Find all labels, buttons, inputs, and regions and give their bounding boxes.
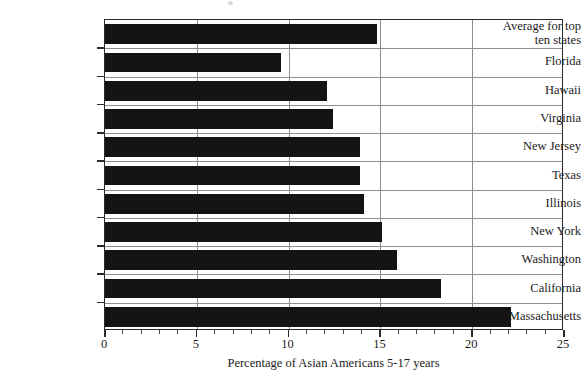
x-axis-tick-minor (233, 330, 234, 334)
x-axis-tick-label: 15 (359, 337, 399, 352)
gridline-horizontal (105, 161, 562, 162)
gridline-horizontal (105, 274, 562, 275)
bar (105, 250, 397, 270)
x-axis-tick-minor (122, 330, 123, 334)
gridline-horizontal (105, 190, 562, 191)
y-axis-tick (97, 132, 104, 134)
y-axis-label-virginia: Virginia (486, 111, 586, 125)
x-axis-title: Percentage of Asian Americans 5-17 years (104, 356, 563, 371)
x-axis-tick-minor (343, 330, 344, 334)
y-axis-label-illinois: Illinois (486, 196, 586, 210)
x-axis-tick-minor (453, 330, 454, 334)
y-axis-label-washington: Washington (486, 252, 586, 266)
gridline-horizontal (105, 133, 562, 134)
x-axis-tick-label: 5 (176, 337, 216, 352)
x-axis-tick-label: 20 (451, 337, 491, 352)
x-axis-tick-major (563, 330, 565, 337)
bar (105, 222, 382, 242)
gridline-horizontal (105, 246, 562, 247)
bar (105, 81, 327, 101)
gridline-horizontal (105, 218, 562, 219)
x-axis-tick-minor (398, 330, 399, 334)
x-axis-tick-major (196, 330, 198, 337)
x-axis-tick-minor (508, 330, 509, 334)
x-axis-tick-label: 25 (543, 337, 583, 352)
y-axis-tick (97, 189, 104, 191)
x-axis-tick-minor (434, 330, 435, 334)
y-axis-label-average-for-top-ten-states: Average for top ten states (486, 19, 586, 47)
x-axis-tick-major (471, 330, 473, 337)
x-axis-tick-label: 10 (268, 337, 308, 352)
gridline-horizontal (105, 105, 562, 106)
y-axis-tick (97, 104, 104, 106)
y-axis-tick (97, 273, 104, 275)
scan-artifact-speck (228, 1, 233, 5)
bar (105, 24, 377, 44)
x-axis-tick-major (288, 330, 290, 337)
bar (105, 109, 333, 129)
y-axis-tick (97, 245, 104, 247)
gridline-horizontal (105, 48, 562, 49)
y-axis-label-texas: Texas (486, 168, 586, 182)
x-axis-tick-minor (159, 330, 160, 334)
x-axis-tick-minor (416, 330, 417, 334)
bar (105, 194, 364, 214)
x-axis-tick-minor (490, 330, 491, 334)
x-axis-tick-minor (306, 330, 307, 334)
bar (105, 166, 360, 186)
bar (105, 137, 360, 157)
x-axis-tick-minor (269, 330, 270, 334)
x-axis-tick-minor (177, 330, 178, 334)
y-axis-label-new-jersey: New Jersey (486, 139, 586, 153)
x-axis-tick-minor (324, 330, 325, 334)
gridline-horizontal (105, 303, 562, 304)
x-axis-tick-minor (214, 330, 215, 334)
x-axis-tick-major (379, 330, 381, 337)
x-axis-tick-minor (361, 330, 362, 334)
x-axis-tick-major (104, 330, 106, 337)
bar-chart-figure: Average for top ten statesFloridaHawaiiV… (0, 0, 586, 389)
x-axis-tick-minor (251, 330, 252, 334)
y-axis-label-massachusetts: Massachusetts (486, 309, 586, 323)
x-axis-tick-minor (545, 330, 546, 334)
x-axis-tick-minor (141, 330, 142, 334)
x-axis-tick-label: 0 (84, 337, 124, 352)
bar (105, 307, 511, 327)
y-axis-label-florida: Florida (486, 54, 586, 68)
y-axis-tick (97, 160, 104, 162)
x-axis-tick-minor (526, 330, 527, 334)
bar (105, 279, 441, 299)
y-axis-tick (97, 302, 104, 304)
gridline-horizontal (105, 77, 562, 78)
y-axis-tick (97, 217, 104, 219)
y-axis-label-hawaii: Hawaii (486, 83, 586, 97)
y-axis-tick (97, 47, 104, 49)
bar (105, 53, 281, 73)
y-axis-tick (97, 76, 104, 78)
y-axis-label-new-york: New York (486, 224, 586, 238)
y-axis-label-california: California (486, 281, 586, 295)
